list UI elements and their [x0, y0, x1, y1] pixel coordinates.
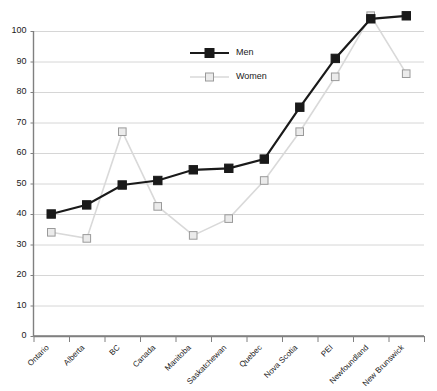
y-tick-label: 40 — [16, 208, 26, 218]
data-point-women-ontario — [48, 229, 56, 237]
y-tick-label: 50 — [16, 178, 26, 188]
data-point-men-pei — [331, 54, 339, 62]
data-point-women-nova-scotia — [296, 128, 304, 136]
data-point-women-quebec — [260, 177, 268, 185]
legend-marker-men — [205, 49, 214, 58]
y-tick-label: 60 — [16, 147, 26, 157]
data-point-women-canada — [154, 203, 162, 211]
data-point-men-newfoundland — [367, 15, 375, 23]
y-tick-label: 0 — [21, 330, 26, 340]
data-point-men-ontario — [47, 210, 55, 218]
legend-label-men: Men — [236, 47, 254, 57]
legend-marker-women — [206, 73, 214, 81]
chart-background — [0, 0, 437, 391]
data-point-women-pei — [331, 73, 339, 81]
y-tick-label: 100 — [11, 25, 26, 35]
y-tick-label: 70 — [16, 117, 26, 127]
data-point-men-nova-scotia — [296, 103, 304, 111]
data-point-women-alberta — [83, 235, 91, 243]
data-point-men-canada — [154, 176, 162, 184]
data-point-women-manitoba — [189, 232, 197, 240]
y-tick-label: 80 — [16, 86, 26, 96]
data-point-women-saskatchewan — [225, 215, 233, 223]
data-point-women-bc — [119, 128, 127, 136]
legend-label-women: Women — [236, 71, 267, 81]
y-tick-label: 20 — [16, 269, 26, 279]
data-point-men-alberta — [83, 201, 91, 209]
data-point-men-bc — [118, 181, 126, 189]
data-point-men-quebec — [260, 155, 268, 163]
data-point-women-new-brunswick — [402, 70, 410, 78]
data-point-men-manitoba — [189, 166, 197, 174]
y-tick-label: 10 — [16, 300, 26, 310]
y-tick-label: 30 — [16, 239, 26, 249]
line-chart: 0102030405060708090100 OntarioAlbertaBCC… — [0, 0, 437, 391]
y-tick-label: 90 — [16, 56, 26, 66]
chart-container: 0102030405060708090100 OntarioAlbertaBCC… — [0, 0, 437, 391]
data-point-men-saskatchewan — [225, 164, 233, 172]
data-point-men-new-brunswick — [402, 12, 410, 20]
